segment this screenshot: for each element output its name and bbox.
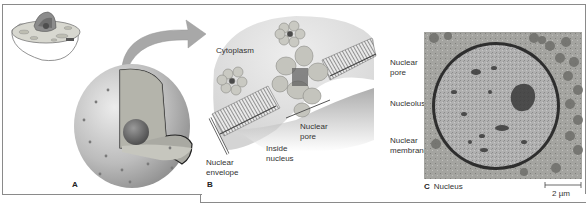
label-inside-nucleus: Inside nucleus [266,144,294,164]
electron-micrograph [424,32,582,179]
panel-a-letter: A [72,180,78,189]
label-nuclear-envelope: Nuclear envelope [206,158,238,178]
panel-c-letter: C [424,182,430,191]
label-nucleolus: Nucleolus [390,99,425,109]
panel-b: Cytoplasm Nuclear pore Inside nucleus Nu… [196,0,396,200]
cell-inset-illustration [8,6,78,66]
panel-c: Nuclear pore Nucleolus Nuclear membrane [390,0,588,206]
label-cytoplasm: Cytoplasm [216,46,254,56]
panel-c-title: Nucleus [434,182,463,191]
nuclear-envelope-illustration [206,10,376,160]
panel-b-letter: B [207,180,213,189]
panel-c-caption: CNucleus [424,182,463,192]
scale-bar-label: 2 µm [552,189,570,199]
label-nuclear-pore-c: Nuclear pore [390,58,418,78]
panel-a: A [0,0,200,200]
nucleus-cutaway-illustration [70,62,200,192]
label-nuclear-membrane: Nuclear membrane [390,136,428,156]
label-nuclear-pore-b: Nuclear pore [300,122,328,142]
scale-bar [544,182,582,188]
